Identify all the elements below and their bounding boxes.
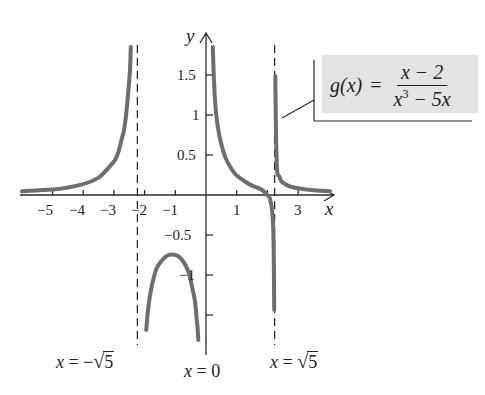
x-axis [20, 189, 334, 201]
graph: −5 −4 −3 −2 −1 1 3 x 1.5 1 0.5 −0.5 −1 y… [0, 0, 485, 395]
x-tick-label: −5 [37, 203, 53, 218]
x-tick-label: −1 [162, 203, 178, 218]
x-tick-label: −2 [131, 203, 147, 218]
curve-left-branch [22, 47, 131, 191]
x-tick-label: −4 [69, 203, 85, 218]
x-tick-label: 1 [233, 203, 241, 218]
denominator: x3 − 5x [389, 86, 454, 111]
numerator: x − 2 [397, 61, 447, 86]
y-tick-label: 0.5 [177, 148, 196, 163]
y-axis [200, 33, 213, 355]
x-tick-label: −3 [100, 203, 116, 218]
function-formula: g(x) = x − 2 x3 − 5x [330, 61, 455, 111]
function-name: g(x) [330, 74, 362, 97]
asymptote-label-pos-sqrt5: x = √5 [270, 351, 318, 371]
x-axis-label: x [325, 199, 333, 218]
y-axis-label: y [186, 26, 194, 45]
callout-leader-line [282, 100, 314, 118]
y-tick-label: 1 [192, 108, 200, 123]
x-tick-label: 3 [294, 203, 302, 218]
y-tick-label: −1 [179, 268, 195, 283]
asymptote-label-neg-sqrt5: x = −√5 [56, 351, 114, 371]
equals-sign: = [370, 74, 381, 97]
y-tick-label: 1.5 [177, 68, 196, 83]
fraction: x − 2 x3 − 5x [389, 61, 454, 111]
curve-middle-positive [213, 47, 274, 310]
asymptote-label-zero: x = 0 [184, 362, 220, 380]
y-tick-label: −0.5 [164, 228, 191, 243]
